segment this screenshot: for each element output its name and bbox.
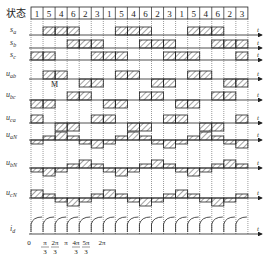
- x-tick-denominator: 3: [53, 248, 57, 256]
- state-cell: 6: [216, 9, 221, 19]
- current-ripple: [152, 217, 163, 232]
- current-ripple: [200, 217, 211, 232]
- x-tick-denominator: 3: [84, 248, 88, 256]
- x-tick-label: 2π: [98, 239, 106, 247]
- state-header-label: 状态: [6, 7, 26, 19]
- time-axis-label: t: [257, 39, 260, 47]
- current-ripple: [212, 217, 223, 232]
- current-ripple: [164, 217, 175, 232]
- state-cell: 1: [107, 9, 112, 19]
- state-header: 状态 154623154623154623: [6, 7, 248, 19]
- state-cell: 4: [203, 9, 208, 19]
- current-ripple: [115, 217, 126, 232]
- state-cell: 5: [47, 9, 52, 19]
- state-cell: 3: [240, 9, 245, 19]
- time-axis-label: t: [257, 189, 260, 197]
- state-cell: 5: [119, 9, 124, 19]
- x-axis-ticks: 0π32π3π4π35π32π: [27, 239, 106, 256]
- marker-m: M: [51, 80, 58, 89]
- state-cell: 3: [167, 9, 172, 19]
- time-axis-label: t: [257, 91, 260, 99]
- x-tick-label: 0: [27, 239, 31, 247]
- current-ripple: [91, 217, 102, 232]
- row-label-id: id: [10, 224, 16, 234]
- state-cell: 4: [131, 9, 136, 19]
- current-ripple: [176, 217, 187, 232]
- row-labels: sasbscuabubcucauaNubNucNid: [6, 25, 18, 234]
- row-label-sb: sb: [10, 38, 16, 48]
- current-ripple: [55, 217, 66, 232]
- current-ripple: [31, 217, 42, 232]
- state-cell: 2: [83, 9, 88, 19]
- time-axis-label: t: [257, 114, 260, 122]
- current-ripple: [67, 217, 78, 232]
- state-cell: 2: [155, 9, 160, 19]
- state-cell: 4: [59, 9, 64, 19]
- x-tick-label: 4π: [72, 239, 80, 247]
- current-ripple: [224, 217, 235, 232]
- time-axis-label: t: [257, 159, 260, 167]
- state-cell: 3: [95, 9, 100, 19]
- x-tick-label: 2π: [51, 239, 59, 247]
- time-axis-label: t: [257, 26, 260, 34]
- time-axis-label: t: [257, 70, 260, 78]
- waveforms: tttttttttt: [29, 26, 262, 234]
- x-tick-label: π: [64, 239, 68, 247]
- row-label-uca: uca: [6, 113, 16, 123]
- x-tick-label: π: [43, 239, 47, 247]
- row-label-ubN: ubN: [6, 158, 18, 168]
- current-ripple: [79, 217, 90, 232]
- x-tick-label: 5π: [82, 239, 90, 247]
- inverter-switching-waveform-diagram: 状态 154623154623154623 tttttttttt sasbscu…: [0, 0, 267, 265]
- state-cell: 5: [191, 9, 196, 19]
- state-cell: 6: [71, 9, 76, 19]
- state-cell: 6: [143, 9, 148, 19]
- row-label-uaN: uaN: [6, 130, 18, 140]
- row-label-uab: uab: [6, 69, 16, 79]
- row-label-sc: sc: [10, 50, 16, 60]
- current-ripple: [103, 217, 114, 232]
- row-label-sa: sa: [10, 25, 16, 35]
- time-axis-label: t: [257, 225, 260, 233]
- current-ripple: [139, 217, 150, 232]
- time-axis-label: t: [257, 131, 260, 139]
- time-axis-label: t: [257, 51, 260, 59]
- state-cell: 1: [179, 9, 184, 19]
- current-ripple: [43, 217, 54, 232]
- x-tick-denominator: 3: [74, 248, 78, 256]
- row-label-ubc: ubc: [6, 90, 16, 100]
- current-ripple: [127, 217, 138, 232]
- current-ripple: [188, 217, 199, 232]
- row-label-ucN: ucN: [6, 188, 18, 198]
- state-cell: 1: [35, 9, 40, 19]
- state-cell: 2: [228, 9, 233, 19]
- x-tick-denominator: 3: [43, 248, 47, 256]
- current-ripple: [236, 217, 247, 232]
